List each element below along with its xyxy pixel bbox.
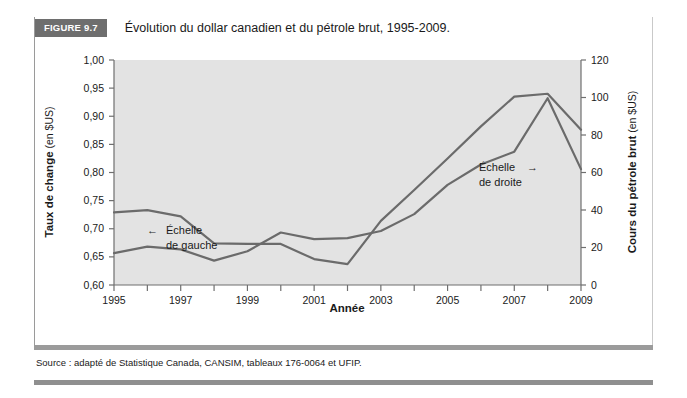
x-axis-tick-label: 2007 [503,294,527,306]
figure-page: FIGURE 9.7 Évolution du dollar canadien … [0,0,687,398]
y-axis-right-tick-label: 20 [591,241,603,253]
source-note: Source : adapté de Statistique Canada, C… [36,357,362,368]
y-axis-left-tick-label: 0,90 [84,110,105,122]
figure-title: Évolution du dollar canadien et du pétro… [125,21,450,35]
line-chart: 0,600,650,700,750,800,850,900,951,00 020… [35,50,654,315]
annotation-left-scale-line1: Échelle [166,224,202,236]
figure-container: FIGURE 9.7 Évolution du dollar canadien … [34,17,653,347]
y-axis-left-tick-label: 0,85 [84,138,105,150]
x-axis-tick-label: 2003 [369,294,393,306]
annotation-left-scale-arrow: ← [147,224,158,236]
annotation-right-scale-line2: de droite [479,176,522,188]
x-axis-tick-label: 2005 [436,294,460,306]
y-axis-right: 020406080100120 [581,54,609,291]
figure-number-badge: FIGURE 9.7 [35,19,107,37]
y-axis-right-tick-label: 80 [591,129,603,141]
y-axis-left-tick-label: 0,60 [84,279,105,291]
y-axis-right-tick-label: 60 [591,166,603,178]
separator-bar-top [34,345,653,350]
y-axis-right-tick-label: 100 [591,91,609,103]
y-axis-right-tick-label: 0 [591,279,597,291]
y-axis-left-tick-label: 0,95 [84,82,105,94]
annotation-right-scale-line1: Échelle [479,161,515,173]
x-axis-tick-label: 2009 [569,294,593,306]
x-axis-tick-label: 2001 [302,294,326,306]
y-axis-left-tick-label: 0,80 [84,166,105,178]
separator-bar-bottom [34,380,653,385]
figure-header: FIGURE 9.7 Évolution du dollar canadien … [35,17,450,39]
annotation-right-scale-arrow: → [527,161,538,173]
y-axis-left-tick-label: 0,65 [84,250,105,262]
chart-area: 0,600,650,700,750,800,850,900,951,00 020… [35,50,654,315]
y-axis-right-tick-label: 40 [591,204,603,216]
x-axis-tick-label: 1997 [169,294,193,306]
y-axis-left-title: Taux de change (en $US) [43,107,55,238]
y-axis-left-tick-label: 0,75 [84,194,105,206]
y-axis-left-tick-label: 1,00 [84,54,105,66]
y-axis-left-tick-label: 0,70 [84,222,105,234]
y-axis-right-title: Cours du pétrole brut (en $US) [626,91,638,254]
y-axis-right-tick-label: 120 [591,54,609,66]
annotation-left-scale-line2: de gauche [166,239,217,251]
x-axis-title: Année [329,302,364,314]
y-axis-left: 0,600,650,700,750,800,850,900,951,00 [84,54,114,291]
x-axis-tick-label: 1995 [102,294,126,306]
x-axis-tick-label: 1999 [236,294,260,306]
